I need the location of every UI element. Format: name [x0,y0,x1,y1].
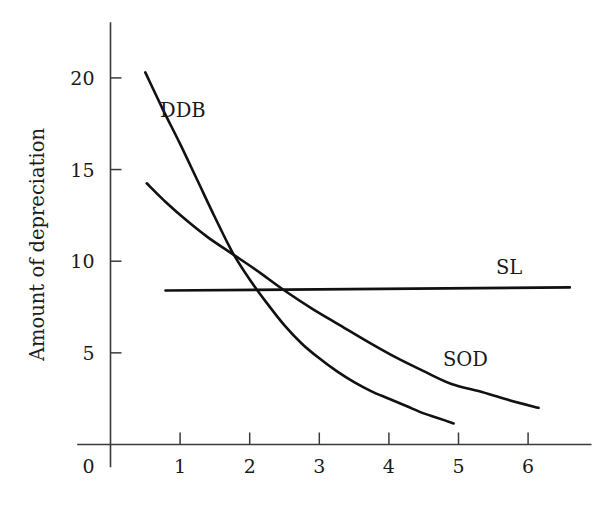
depreciation-chart-figure: Amount of depreciation DDB SL SOD 510152… [0,0,602,507]
series-group [145,72,570,423]
origin-tick-label: 0 [82,457,94,476]
y-axis-tick-label: 20 [33,68,95,87]
y-axis-tick-label: 10 [33,252,95,271]
series-curve-ddb [145,72,453,423]
x-axis-tick-label: 1 [174,457,186,476]
x-axis-tick-label: 4 [383,457,395,476]
y-axis-tick-label: 5 [33,343,95,362]
axes-group [78,23,591,467]
series-label-sl: SL [496,258,522,278]
series-curve-sl [165,287,569,290]
series-label-sod: SOD [443,350,488,370]
x-axis-tick-label: 2 [244,457,256,476]
x-axis-tick-label: 3 [313,457,325,476]
series-label-ddb: DDB [160,101,206,121]
x-axis-tick-label: 5 [452,457,464,476]
x-axis-tick-label: 6 [522,457,534,476]
ticks-group [111,78,529,445]
y-axis-tick-label: 15 [33,160,95,179]
